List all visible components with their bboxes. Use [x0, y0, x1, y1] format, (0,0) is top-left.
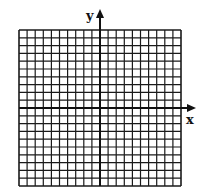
x-axis-arrow-icon [187, 104, 196, 112]
coordinate-grid-figure: y x [0, 0, 208, 191]
y-axis-label: y [85, 8, 94, 23]
x-axis-label: x [186, 112, 194, 127]
y-axis-arrow-icon [96, 9, 104, 18]
